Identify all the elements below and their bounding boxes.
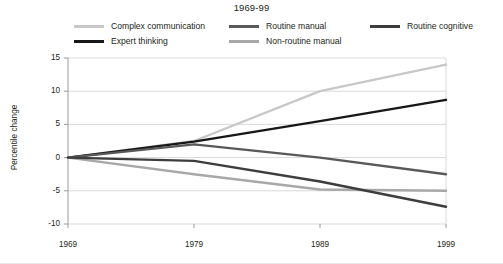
plot-svg [0, 0, 503, 264]
series-line-non-routine-manual [68, 158, 446, 191]
y-tick-label-5: 5 [34, 119, 60, 128]
x-tick-marks-group [68, 224, 446, 228]
x-tick-label-1999: 1999 [426, 240, 466, 249]
series-group [68, 65, 446, 207]
x-tick-label-1989: 1989 [300, 240, 340, 249]
series-line-complex-communication [68, 65, 446, 158]
y-tick-label-10: 10 [34, 86, 60, 95]
chart-figure: 1969-99 Complex communication Routine ma… [0, 0, 503, 264]
y-tick-label--5: -5 [34, 186, 60, 195]
plot-area: Percentile change 151050-5-10 1969197919… [0, 0, 503, 264]
axis-group [64, 58, 446, 224]
x-tick-label-1969: 1969 [48, 240, 88, 249]
y-tick-label--10: -10 [34, 219, 60, 228]
y-axis-title: Percentile change [10, 83, 19, 193]
y-tick-label-0: 0 [34, 153, 60, 162]
y-tick-label-15: 15 [34, 53, 60, 62]
x-tick-label-1979: 1979 [174, 240, 214, 249]
gridlines-group [68, 58, 446, 224]
